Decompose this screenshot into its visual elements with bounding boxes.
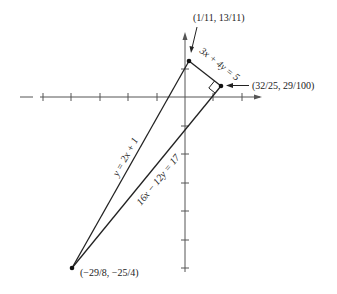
arrow-top-icon [190,46,195,53]
x-axis-arrow-icon [254,95,262,100]
y-axis-arrow-icon [183,32,188,40]
triangle [72,61,221,268]
coordinate-diagram: (1/11, 13/11) (32/25, 29/100) (−29/8, −2… [0,0,337,294]
point-top [187,59,192,64]
label-line-long: 16x − 12y = 17 [134,151,182,207]
point-right [219,84,224,89]
x-axis [20,93,262,101]
point-bottom [70,266,75,271]
line-16x-12y-17 [72,86,221,268]
label-point-bottom: (−29/8, −25/4) [80,267,139,279]
arrow-right-icon [226,83,233,88]
label-line-short: 3x + 4y = 5 [197,44,242,82]
label-point-right: (32/25, 29/100) [252,80,314,92]
label-point-top: (1/11, 13/11) [193,12,244,24]
label-line-left: y = 2x + 1 [110,136,141,179]
right-angle-marker [209,81,215,93]
